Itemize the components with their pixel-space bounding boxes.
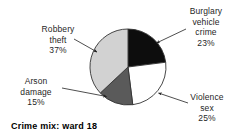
pie-chart-figure: Burglary vehicle crime 23% Robbery theft…	[0, 0, 236, 140]
slice-label-arson-line1: Arson	[8, 76, 64, 87]
slice-label-violence-line1: Violence	[180, 92, 234, 103]
chart-caption: Crime mix: ward 18	[11, 121, 97, 131]
pie-slice-burglary	[128, 29, 166, 67]
slice-label-robbery-percent: 37%	[30, 45, 86, 56]
slice-label-robbery-line1: Robbery	[30, 24, 86, 35]
pie-slices-group	[90, 29, 166, 105]
slice-label-burglary-line1: Burglary	[178, 6, 234, 17]
slice-label-violence-percent: 25%	[180, 113, 234, 124]
slice-label-robbery: Robbery theft 37%	[30, 24, 86, 56]
slice-label-arson-line2: damage	[8, 87, 64, 98]
slice-label-burglary: Burglary vehicle crime 23%	[178, 6, 234, 48]
slice-label-violence: Violence sex 25%	[180, 92, 234, 124]
slice-label-robbery-line2: theft	[30, 35, 86, 46]
slice-label-arson-percent: 15%	[8, 97, 64, 108]
slice-label-burglary-line3: crime	[178, 27, 234, 38]
slice-label-burglary-line2: vehicle	[178, 17, 234, 28]
pie-slice-violence	[128, 62, 166, 104]
slice-label-burglary-percent: 23%	[178, 38, 234, 49]
slice-label-violence-line2: sex	[180, 103, 234, 114]
slice-label-arson: Arson damage 15%	[8, 76, 64, 108]
